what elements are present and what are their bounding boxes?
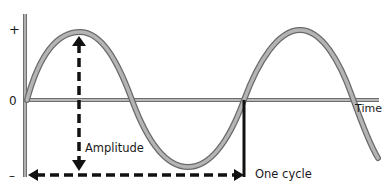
minus-label: – [9,169,15,183]
zero-label: 0 [9,94,17,108]
arrow-left-icon [28,169,38,181]
arrow-up-icon [72,36,86,46]
amplitude-arrow [72,36,86,171]
arrow-down-icon [72,160,86,171]
one-cycle-label: One cycle [255,167,312,181]
sine-wave-diagram: + 0 – Time Amplitude One cycle [0,0,389,189]
plus-label: + [9,22,20,37]
amplitude-label: Amplitude [85,141,144,155]
diagram-svg: + 0 – Time Amplitude One cycle [0,0,389,189]
time-label: Time [354,102,382,115]
